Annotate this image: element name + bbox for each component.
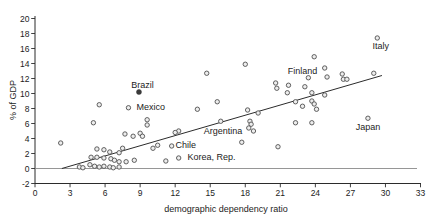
data-point bbox=[312, 55, 316, 59]
data-point bbox=[195, 107, 199, 111]
y-tick-label: -2 bbox=[22, 179, 30, 189]
data-point bbox=[273, 81, 277, 85]
data-point bbox=[132, 158, 136, 162]
data-point bbox=[205, 71, 209, 75]
data-point bbox=[247, 126, 251, 130]
scatter-points bbox=[59, 36, 380, 170]
y-tick-label: 8 bbox=[25, 104, 30, 114]
scatter-chart-figure: -20246810121416182003691215182124273033 … bbox=[0, 0, 426, 222]
data-point bbox=[95, 147, 99, 151]
x-tick-label: 33 bbox=[416, 188, 426, 198]
data-point bbox=[112, 158, 116, 162]
country-label: Finland bbox=[288, 66, 318, 76]
y-tick-label: 0 bbox=[25, 164, 30, 174]
x-tick-label: 21 bbox=[276, 188, 286, 198]
y-tick-label: 10 bbox=[20, 89, 30, 99]
y-tick-label: 2 bbox=[25, 149, 30, 159]
data-point bbox=[323, 93, 327, 97]
data-point bbox=[169, 144, 173, 148]
data-point bbox=[145, 118, 149, 122]
y-tick-label: 12 bbox=[20, 74, 30, 84]
x-tick-label: 30 bbox=[381, 188, 391, 198]
data-point bbox=[126, 106, 130, 110]
data-point bbox=[176, 156, 180, 160]
y-tick-label: 6 bbox=[25, 119, 30, 129]
x-tick-label: 24 bbox=[311, 188, 321, 198]
x-tick-label: 6 bbox=[103, 188, 108, 198]
data-point bbox=[345, 77, 349, 81]
data-point bbox=[286, 83, 290, 87]
data-point bbox=[117, 165, 121, 169]
country-label: Brazil bbox=[131, 80, 154, 90]
y-tick-label: 16 bbox=[20, 44, 30, 54]
x-tick-label: 3 bbox=[68, 188, 73, 198]
data-point bbox=[102, 156, 106, 160]
data-point bbox=[131, 134, 135, 138]
data-point bbox=[325, 75, 329, 79]
data-point bbox=[155, 143, 159, 147]
x-axis-title: demographic dependency ratio bbox=[164, 204, 288, 214]
data-point bbox=[285, 91, 289, 95]
y-tick-label: 4 bbox=[25, 134, 30, 144]
data-point bbox=[91, 121, 95, 125]
data-point bbox=[219, 119, 223, 123]
data-point bbox=[300, 104, 304, 108]
x-tick-label: 0 bbox=[33, 188, 38, 198]
data-point bbox=[102, 164, 106, 168]
data-point bbox=[293, 100, 297, 104]
data-point bbox=[117, 160, 121, 164]
x-tick-label: 9 bbox=[138, 188, 143, 198]
data-point bbox=[97, 165, 101, 169]
x-tick-label: 27 bbox=[346, 188, 356, 198]
data-point bbox=[306, 76, 310, 80]
data-point bbox=[312, 102, 316, 106]
y-axis-title: % of GDP bbox=[8, 80, 18, 120]
data-point bbox=[173, 130, 177, 134]
data-point bbox=[323, 66, 327, 70]
data-point bbox=[340, 72, 344, 76]
data-point bbox=[117, 151, 121, 155]
data-point bbox=[164, 159, 168, 163]
data-point bbox=[310, 91, 314, 95]
y-tick-label: 20 bbox=[20, 14, 30, 24]
x-tick-label: 18 bbox=[241, 188, 251, 198]
data-point bbox=[303, 85, 307, 89]
country-label: Korea, Rep. bbox=[187, 152, 235, 162]
data-point bbox=[375, 36, 379, 40]
data-point bbox=[366, 116, 370, 120]
data-point bbox=[140, 134, 144, 138]
data-point bbox=[108, 150, 112, 154]
data-point bbox=[243, 62, 247, 66]
country-label: Japan bbox=[356, 122, 381, 132]
data-point bbox=[372, 71, 376, 75]
data-point bbox=[151, 146, 155, 150]
scatter-chart: -20246810121416182003691215182124273033 … bbox=[0, 0, 426, 222]
x-tick-label: 12 bbox=[170, 188, 180, 198]
data-point bbox=[240, 140, 244, 144]
data-point bbox=[95, 155, 99, 159]
data-point bbox=[293, 121, 297, 125]
data-point bbox=[123, 132, 127, 136]
axes: -20246810121416182003691215182124273033 bbox=[20, 14, 425, 198]
data-point bbox=[251, 129, 255, 133]
data-point bbox=[215, 100, 219, 104]
country-label: Italy bbox=[373, 41, 390, 51]
data-point bbox=[245, 108, 249, 112]
data-point bbox=[92, 164, 96, 168]
data-point bbox=[124, 160, 128, 164]
data-point bbox=[120, 146, 124, 150]
data-point bbox=[102, 148, 106, 152]
data-point bbox=[314, 107, 318, 111]
country-label: Mexico bbox=[136, 102, 165, 112]
data-point-filled bbox=[136, 90, 141, 95]
y-tick-label: 18 bbox=[20, 29, 30, 39]
data-point bbox=[256, 111, 260, 115]
data-point bbox=[111, 166, 115, 170]
data-point bbox=[88, 163, 92, 167]
country-label: Argentina bbox=[204, 126, 243, 136]
x-tick-label: 15 bbox=[205, 188, 215, 198]
data-point bbox=[97, 103, 101, 107]
data-point bbox=[89, 155, 93, 159]
y-tick-label: 14 bbox=[20, 59, 30, 69]
data-point bbox=[310, 121, 314, 125]
